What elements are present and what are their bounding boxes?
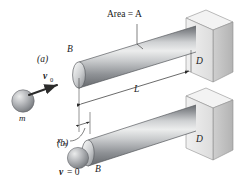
area-label: Area = A: [107, 9, 142, 19]
mass-label: m: [19, 113, 26, 123]
velocity-initial-symbol: v: [43, 71, 48, 81]
projectile-mass-sphere: [12, 90, 34, 112]
lower-rod-end-label: B: [95, 164, 101, 174]
velocity-initial-label: v 0: [43, 71, 53, 83]
velocity-vector-arrow: [29, 85, 57, 95]
panel-a-label: (a): [37, 54, 48, 65]
deflection-subscript: m: [63, 140, 68, 147]
velocity-zero-value: = 0: [67, 167, 80, 177]
upper-rod-end-label: B: [67, 44, 73, 54]
length-label: L: [133, 84, 139, 94]
deflection-symbol: x: [56, 135, 61, 145]
resting-mass-sphere: [67, 147, 88, 168]
upper-wall-label: D: [195, 56, 203, 66]
upper-rod-cylinder: [73, 26, 196, 88]
velocity-zero-symbol: v: [59, 167, 64, 177]
velocity-zero-label: v = 0: [59, 167, 80, 177]
deflection-dimension: [70, 106, 90, 141]
figure-canvas: Area = A (a) (b) v 0 m B B D D L x m v =…: [0, 0, 237, 178]
impact-rod-figure: Area = A (a) (b) v 0 m B B D D L x m v =…: [0, 0, 237, 178]
lower-wall-label: D: [195, 134, 203, 144]
velocity-initial-subscript: 0: [50, 76, 53, 83]
lower-rod-cylinder: [82, 105, 196, 166]
